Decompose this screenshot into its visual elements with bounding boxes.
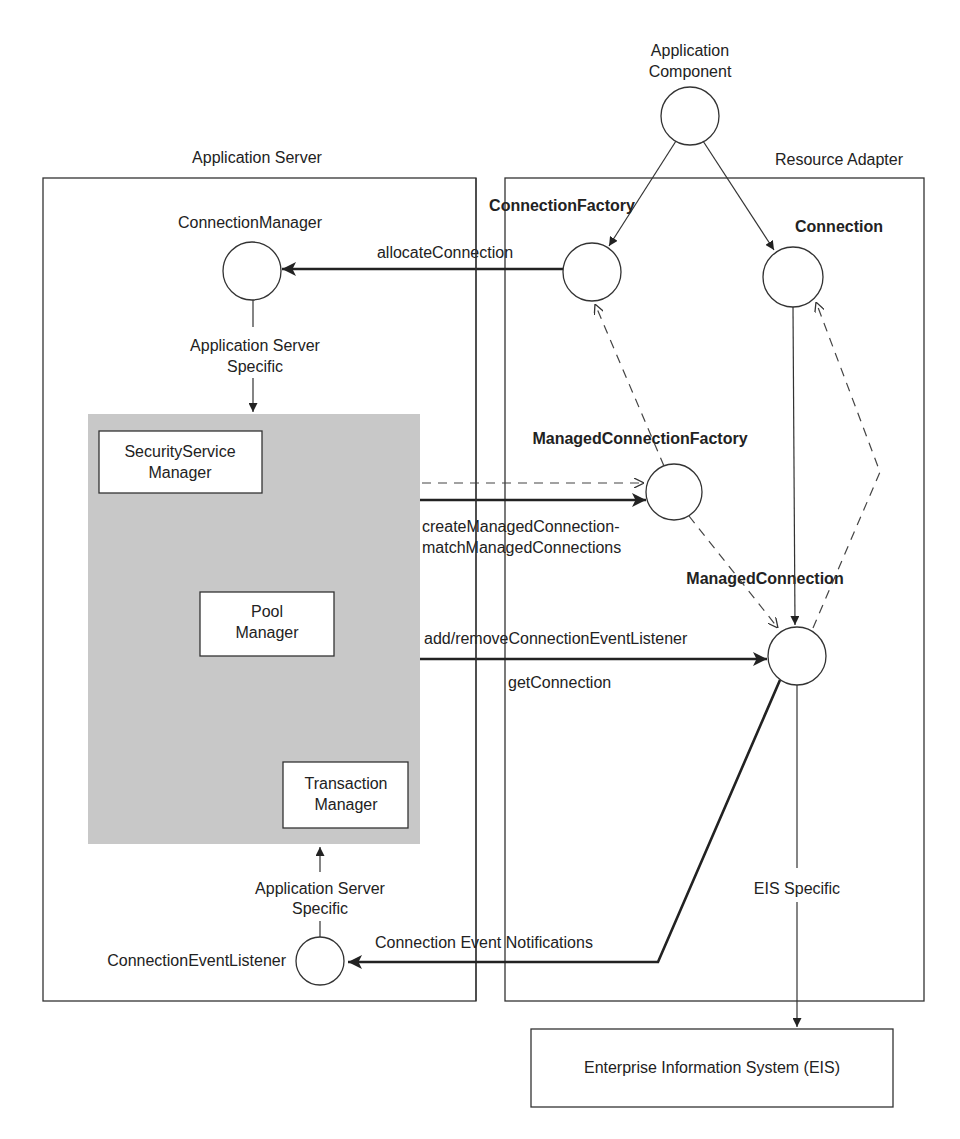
svg-text:Manager: Manager: [148, 464, 212, 481]
managed-connection-factory-node: [646, 464, 702, 520]
connection-manager-label: ConnectionManager: [178, 214, 323, 231]
managed-connection-factory-label: ManagedConnectionFactory: [532, 430, 747, 447]
svg-text:SecurityService: SecurityService: [124, 443, 235, 460]
connection-factory-node: [563, 243, 621, 301]
app-server-specific-bottom-line1: Application Server: [255, 880, 386, 897]
svg-text:Enterprise Information System: Enterprise Information System (EIS): [584, 1059, 840, 1076]
svg-text:Manager: Manager: [314, 796, 378, 813]
connection-event-listener-label: ConnectionEventListener: [107, 952, 286, 969]
get-connection-label: getConnection: [508, 674, 611, 691]
pool-manager-box: Pool Manager: [200, 592, 334, 656]
app-server-specific-top-line1: Application Server: [190, 337, 321, 354]
add-remove-listener-label: add/removeConnectionEventListener: [424, 630, 688, 647]
connection-label: Connection: [795, 218, 883, 235]
create-match-label-line2: matchManagedConnections: [422, 539, 621, 556]
svg-text:Pool: Pool: [251, 603, 283, 620]
app-server-specific-bottom-line2: Specific: [292, 900, 348, 917]
application-component-node: [661, 87, 719, 145]
connection-event-listener-node: [296, 937, 344, 985]
resource-adapter-container: [505, 178, 924, 1001]
app-to-connection-arrow: [703, 141, 774, 250]
create-match-label-line1: createManagedConnection-: [422, 518, 619, 535]
managed-connection-label: ManagedConnection: [686, 570, 843, 587]
security-service-manager-box: SecurityService Manager: [99, 431, 262, 493]
connection-factory-label: ConnectionFactory: [489, 197, 635, 214]
application-component-label-line1: Application: [651, 42, 729, 59]
connection-manager-node: [223, 242, 281, 300]
app-server-label: Application Server: [192, 149, 323, 166]
connection-node: [763, 247, 823, 307]
eis-specific-label: EIS Specific: [754, 880, 840, 897]
managed-connection-node: [768, 627, 826, 685]
connection-event-notifications-label: Connection Event Notifications: [375, 934, 593, 951]
eis-box: Enterprise Information System (EIS): [531, 1029, 893, 1107]
application-component-label-line2: Component: [649, 63, 732, 80]
svg-text:Transaction: Transaction: [305, 775, 388, 792]
svg-text:Manager: Manager: [235, 624, 299, 641]
architecture-diagram: Application Server Resource Adapter Secu…: [0, 0, 960, 1139]
app-to-connection-factory-arrow: [609, 141, 676, 246]
transaction-manager-box: Transaction Manager: [283, 762, 408, 828]
resource-adapter-label: Resource Adapter: [775, 151, 904, 168]
allocate-connection-label: allocateConnection: [377, 244, 513, 261]
app-server-specific-top-line2: Specific: [227, 358, 283, 375]
